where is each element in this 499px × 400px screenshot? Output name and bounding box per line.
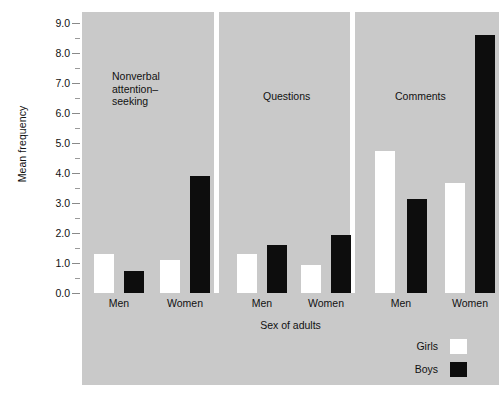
y-tick-label: 6.0	[55, 107, 70, 119]
y-tick-mark	[72, 233, 80, 235]
y-tick-label: 2.0	[55, 227, 70, 239]
y-tick-mark	[72, 263, 80, 265]
x-category-label: Women	[308, 297, 344, 309]
bar	[445, 183, 465, 293]
y-tick-mark	[75, 128, 80, 130]
y-tick-mark	[72, 203, 80, 205]
x-category-label: Men	[252, 297, 272, 309]
y-tick-mark	[75, 38, 80, 40]
bar	[160, 260, 180, 293]
plot-panel: Nonverbal attention– seeking	[82, 12, 214, 293]
y-tick-mark	[75, 68, 80, 70]
y-tick-mark	[75, 188, 80, 190]
y-tick-label: 8.0	[55, 47, 70, 59]
bar	[301, 265, 321, 293]
y-tick-mark	[75, 98, 80, 100]
legend-item: Girls	[332, 339, 492, 356]
plot-panel: Questions	[219, 12, 350, 293]
bar	[237, 254, 257, 293]
chart-legend: GirlsBoys	[332, 339, 492, 385]
plot-panel: Comments	[355, 12, 499, 293]
bar	[475, 35, 495, 293]
plot-panels: Nonverbal attention– seekingQuestionsCom…	[82, 12, 499, 293]
panel-title: Nonverbal attention– seeking	[112, 70, 160, 108]
y-tick-label: 0.0	[55, 287, 70, 299]
bar	[94, 254, 114, 293]
bar	[267, 245, 287, 293]
y-tick-label: 9.0	[55, 17, 70, 29]
y-tick-mark	[75, 158, 80, 160]
y-tick-mark	[75, 278, 80, 280]
legend-item: Boys	[332, 362, 492, 379]
x-category-label: Women	[452, 297, 488, 309]
y-axis-ticks: 0.01.02.03.04.05.06.07.08.09.0	[0, 0, 82, 400]
y-tick-mark	[72, 113, 80, 115]
y-tick-mark	[72, 83, 80, 85]
panel-title: Comments	[395, 90, 446, 103]
legend-label: Girls	[332, 340, 438, 352]
y-tick-label: 5.0	[55, 137, 70, 149]
bar	[331, 235, 351, 293]
y-tick-mark	[72, 143, 80, 145]
legend-swatch	[450, 339, 467, 354]
bar	[124, 271, 144, 294]
y-tick-mark	[72, 53, 80, 55]
chart-figure: Mean frequency 0.01.02.03.04.05.06.07.08…	[0, 0, 499, 400]
y-tick-label: 7.0	[55, 77, 70, 89]
bar	[407, 199, 427, 293]
legend-label: Boys	[332, 363, 438, 375]
bottom-strip: Sex of adults GirlsBoys MenWomenMenWomen…	[82, 293, 499, 385]
bar	[190, 176, 210, 293]
y-tick-mark	[75, 218, 80, 220]
bar	[375, 151, 395, 293]
x-category-label: Men	[391, 297, 411, 309]
x-axis-label: Sex of adults	[82, 319, 499, 331]
y-tick-mark	[72, 173, 80, 175]
x-category-label: Men	[109, 297, 129, 309]
panel-title: Questions	[263, 90, 310, 103]
y-tick-label: 3.0	[55, 197, 70, 209]
y-tick-mark	[72, 23, 80, 25]
y-tick-mark	[72, 293, 80, 295]
x-category-label: Women	[167, 297, 203, 309]
y-tick-label: 1.0	[55, 257, 70, 269]
y-tick-label: 4.0	[55, 167, 70, 179]
y-tick-mark	[75, 248, 80, 250]
legend-swatch	[450, 362, 467, 377]
